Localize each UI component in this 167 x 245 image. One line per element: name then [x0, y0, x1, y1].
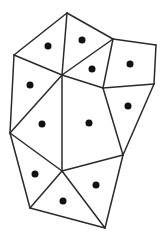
edge-B-E — [14, 55, 62, 75]
edge-F-I — [103, 88, 123, 155]
edge-F-G — [103, 84, 154, 88]
edge-D-G — [154, 45, 156, 84]
edge-K-L — [30, 208, 105, 228]
region-dot — [125, 103, 132, 110]
subdivided-polygon-diagram — [0, 0, 167, 245]
edge-J-L — [62, 171, 105, 228]
edge-H-J — [10, 133, 62, 171]
region-dot — [60, 198, 67, 205]
edge-C-E — [62, 39, 113, 75]
edge-A-E — [62, 13, 67, 75]
region-dot — [86, 120, 93, 127]
edge-I-L — [105, 155, 123, 228]
edge-B-H — [10, 55, 14, 133]
region-dot — [93, 182, 100, 189]
edge-J-I — [62, 155, 123, 171]
edge-E-F — [62, 75, 103, 88]
region-edges — [10, 13, 156, 228]
edge-H-K — [10, 133, 30, 208]
region-dot — [89, 66, 96, 73]
edge-A-B — [14, 13, 67, 55]
edge-C-D — [113, 39, 156, 45]
region-dot — [79, 37, 86, 44]
region-dot — [27, 82, 34, 89]
region-dot — [127, 61, 134, 68]
edge-A-C — [67, 13, 113, 39]
region-dot — [45, 43, 52, 50]
region-dot — [39, 121, 46, 128]
region-dot — [32, 171, 39, 178]
edge-G-I — [123, 84, 154, 155]
edge-E-H — [10, 75, 62, 133]
edge-C-F — [103, 39, 113, 88]
